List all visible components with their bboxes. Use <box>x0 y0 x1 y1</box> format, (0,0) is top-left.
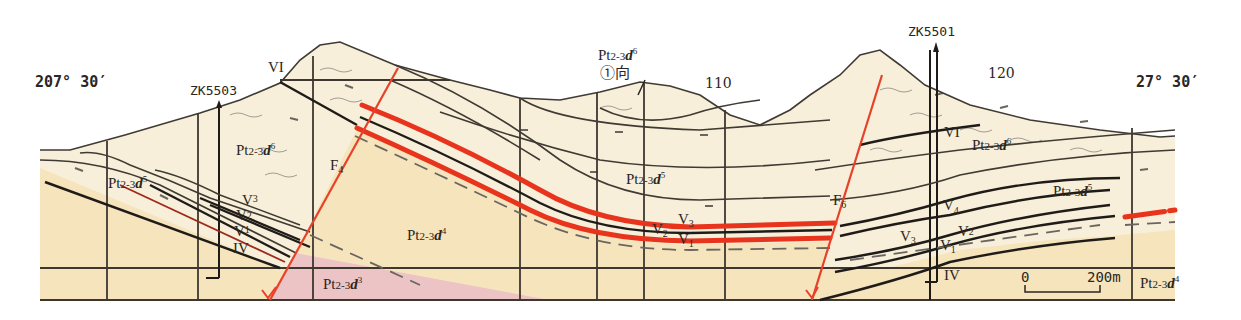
borehole-zk5501-label: ZK5501 <box>908 24 955 39</box>
elevation-110: 110 <box>705 75 732 91</box>
coord-right: 27° 30′ <box>1136 73 1199 91</box>
coord-left: 207° 30′ <box>35 73 107 91</box>
scale-bar-end: 200m <box>1087 269 1121 285</box>
syncline-label: ①向 <box>600 64 630 82</box>
vein-right-vi: VI <box>944 124 960 140</box>
vein-left-iv: IV <box>233 240 249 256</box>
vein-right-iv: IV <box>944 267 960 283</box>
vein-left-v2: V2 <box>236 207 252 223</box>
vein-left-vi: VI <box>268 59 284 75</box>
borehole-zk5503-label: ZK5503 <box>190 83 237 98</box>
geological-cross-section: 207° 30′ 27° 30′ ZK5503 ZK5501 110 120 F… <box>0 0 1241 320</box>
elevation-120: 120 <box>988 65 1015 81</box>
vein-right-v2: V2 <box>958 223 974 239</box>
scale-bar-start: 0 <box>1021 269 1029 285</box>
stratum-d6-top: Pt2-3d6 <box>598 46 638 63</box>
